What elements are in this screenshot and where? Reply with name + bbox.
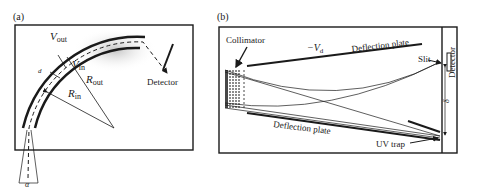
v-out-label: Vout bbox=[50, 30, 68, 44]
d-label: d bbox=[38, 67, 42, 75]
trajectory-4 bbox=[225, 105, 440, 136]
panel-b-label: (b) bbox=[217, 11, 229, 23]
slit-label: Slit bbox=[418, 54, 431, 64]
collimator-label: Collimator bbox=[226, 35, 265, 45]
vd-label: −Vd bbox=[307, 42, 324, 55]
detector-b-label: Detector bbox=[447, 47, 457, 78]
trajectory-3 bbox=[225, 72, 440, 136]
panel-a-label: (a) bbox=[13, 11, 24, 23]
r-in-label: Rin bbox=[67, 87, 81, 101]
divergence-left bbox=[19, 130, 27, 183]
r-out-label: Rout bbox=[85, 73, 104, 87]
delta-label: δ bbox=[442, 99, 451, 103]
panel-a: (a) Vout d Vin Rout Rin Detector α bbox=[13, 11, 193, 189]
uv-trap-label: UV trap bbox=[376, 139, 406, 149]
detector-a-label: Detector bbox=[147, 77, 178, 87]
divergence-right bbox=[31, 130, 38, 183]
trajectory-2 bbox=[225, 62, 440, 106]
panel-b: (b) Collimator −V bbox=[217, 11, 457, 153]
trajectory-5 bbox=[225, 108, 440, 138]
uv-trap-plate bbox=[408, 121, 440, 132]
alpha-label: α bbox=[25, 180, 30, 189]
deflection-plate-top-label: Deflection plate bbox=[351, 37, 410, 54]
diagram-canvas: (a) Vout d Vin Rout Rin Detector α (b) bbox=[0, 0, 481, 196]
collimator-arrow bbox=[236, 47, 247, 67]
trajectory-1 bbox=[225, 62, 440, 91]
detector-a bbox=[163, 44, 173, 70]
panel-b-frame bbox=[219, 27, 457, 153]
